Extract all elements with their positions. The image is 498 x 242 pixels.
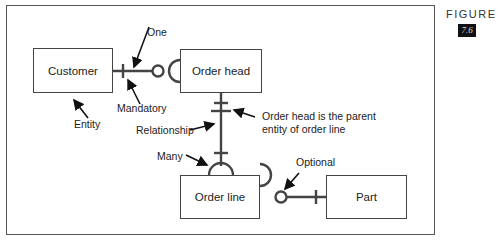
label-many: Many (157, 150, 183, 162)
label-optional: Optional (296, 156, 335, 168)
entity-order-head: Order head (180, 49, 262, 93)
parent-arrow (234, 110, 255, 117)
label-parent-line1: Order head is the parent (262, 110, 376, 122)
many-arrow (186, 155, 207, 165)
entity-customer-label: Customer (48, 65, 98, 77)
label-mandatory: Mandatory (117, 102, 167, 114)
entity-arrow (74, 100, 88, 118)
label-entity: Entity (74, 118, 100, 130)
entity-order-line-label: Order line (195, 191, 246, 203)
entity-part-label: Part (356, 191, 377, 203)
label-one: One (147, 26, 167, 38)
mandatory-arrow (128, 80, 140, 104)
entity-order-line: Order line (180, 175, 260, 219)
label-parent-line2: entity of order line (262, 123, 345, 135)
entity-customer: Customer (33, 48, 113, 93)
entity-order-head-label: Order head (192, 65, 250, 77)
entity-part: Part (326, 175, 407, 219)
optional-arrow (285, 173, 299, 189)
label-relationship: Relationship (136, 124, 194, 136)
